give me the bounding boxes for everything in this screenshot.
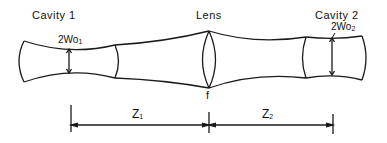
beam-diagram — [0, 0, 387, 143]
waist-1-label: 2Wo1 — [58, 34, 82, 45]
cavity-2-beam — [303, 36, 367, 80]
beam-from-lens — [209, 31, 306, 88]
z1-label: Z1 — [132, 107, 143, 121]
cavity-1-label: Cavity 1 — [32, 9, 76, 21]
dimension-line — [71, 105, 333, 134]
cavity-2-label: Cavity 2 — [315, 9, 359, 21]
waist-2-subscript: 2 — [351, 25, 355, 32]
waist-2-text: 2Wo — [331, 21, 351, 32]
lens-label: Lens — [196, 9, 222, 21]
z2-label: Z2 — [262, 107, 273, 121]
waist-1-arrow — [67, 49, 72, 73]
waist-1-subscript: 1 — [78, 38, 82, 45]
waist-2-label: 2Wo2 — [331, 21, 355, 32]
z2-subscript: 2 — [269, 113, 273, 120]
z1-subscript: 1 — [139, 113, 143, 120]
lens-shape — [203, 31, 216, 88]
focal-length-label: f — [206, 89, 209, 101]
waist-2-arrow — [330, 33, 336, 75]
beam-to-lens — [115, 31, 209, 88]
waist-1-text: 2Wo — [58, 34, 78, 45]
